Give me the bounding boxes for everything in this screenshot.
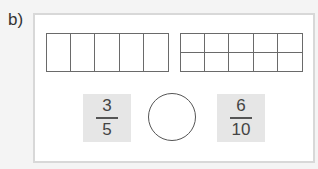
fraction-bar-fifths <box>46 33 169 72</box>
numerator: 6 <box>236 97 245 115</box>
fraction-line <box>96 117 118 119</box>
bar-cell <box>229 53 253 72</box>
bar-cell <box>254 53 278 72</box>
bar-cell <box>205 34 229 53</box>
bar-cell <box>278 34 302 53</box>
bar-cell <box>229 34 253 53</box>
bar-cell <box>144 34 168 71</box>
bar-cell <box>71 34 95 71</box>
fraction-card-left: 3 5 <box>83 94 131 142</box>
fraction-card-right: 6 10 <box>217 94 265 142</box>
question-frame: 3 5 6 10 <box>33 13 315 163</box>
bar-cell <box>120 34 144 71</box>
bar-cell <box>95 34 119 71</box>
bar-cell <box>181 53 205 72</box>
bar-cell <box>47 34 71 71</box>
comparison-answer-circle[interactable] <box>148 93 196 141</box>
bar-cell <box>254 34 278 53</box>
bar-cell <box>181 34 205 53</box>
fraction-bar-tenths <box>180 33 303 72</box>
bar-cell <box>278 53 302 72</box>
denominator: 10 <box>232 121 251 139</box>
denominator: 5 <box>102 121 111 139</box>
bar-cell <box>205 53 229 72</box>
fraction-line <box>230 117 252 119</box>
question-label: b) <box>8 10 23 30</box>
numerator: 3 <box>102 97 111 115</box>
